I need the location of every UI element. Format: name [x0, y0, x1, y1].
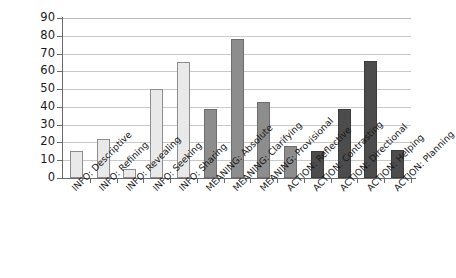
y-tick-mark-20: [57, 142, 63, 143]
y-tick-label-70: 70: [3, 48, 55, 60]
y-tick-label-60: 60: [3, 65, 55, 77]
y-tick-mark-60: [57, 71, 63, 72]
y-tick-mark-0: [57, 178, 63, 179]
y-tick-mark-70: [57, 54, 63, 55]
y-tick-mark-80: [57, 36, 63, 37]
y-tick-label-20: 20: [3, 136, 55, 148]
y-tick-label-40: 40: [3, 101, 55, 113]
y-tick-mark-10: [57, 160, 63, 161]
y-tick-label-10: 10: [3, 154, 55, 166]
y-tick-mark-50: [57, 89, 63, 90]
y-tick-mark-40: [57, 107, 63, 108]
y-axis-labels: 9080706050403020100: [0, 0, 55, 278]
y-tick-label-30: 30: [3, 119, 55, 131]
y-tick-mark-90: [57, 18, 63, 19]
y-tick-label-50: 50: [3, 83, 55, 95]
y-tick-mark-30: [57, 125, 63, 126]
y-tick-label-0: 0: [3, 172, 55, 184]
y-tick-label-80: 80: [3, 30, 55, 42]
y-tick-label-90: 90: [3, 12, 55, 24]
